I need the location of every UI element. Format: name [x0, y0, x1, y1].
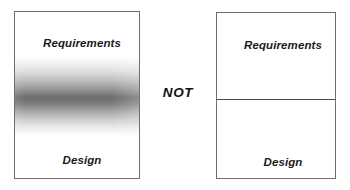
gradient-band: [15, 56, 139, 136]
gradient-box-design-label: Design: [15, 153, 139, 167]
divided-box[interactable]: Requirements Design: [216, 12, 336, 179]
diagram-canvas: Requirements Design NOT Requirements Des…: [0, 0, 350, 190]
gradient-box-requirements-label: Requirements: [15, 36, 139, 50]
not-connector-label: NOT: [155, 85, 201, 101]
divided-box-design-label: Design: [217, 155, 335, 169]
gradient-box[interactable]: Requirements Design: [14, 11, 140, 179]
divided-box-divider: [217, 99, 335, 100]
divided-box-requirements-label: Requirements: [217, 38, 335, 52]
